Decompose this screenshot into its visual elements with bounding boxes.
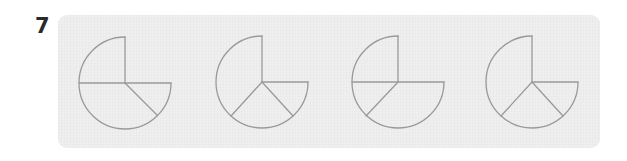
figure-2-lower-right-radius [262,82,293,116]
figure-2-lower-left-radius [231,82,262,116]
figures-diagram [0,0,627,161]
figure-1 [79,37,171,129]
figure-4-lower-left-radius [501,82,532,116]
figure-4-lower-right-radius [532,82,563,116]
figure-1-lower-right-radius [125,83,158,116]
figure-3 [352,36,444,128]
figure-3-lower-left-radius [366,82,398,116]
figure-4 [486,36,578,128]
figure-2 [216,36,308,128]
